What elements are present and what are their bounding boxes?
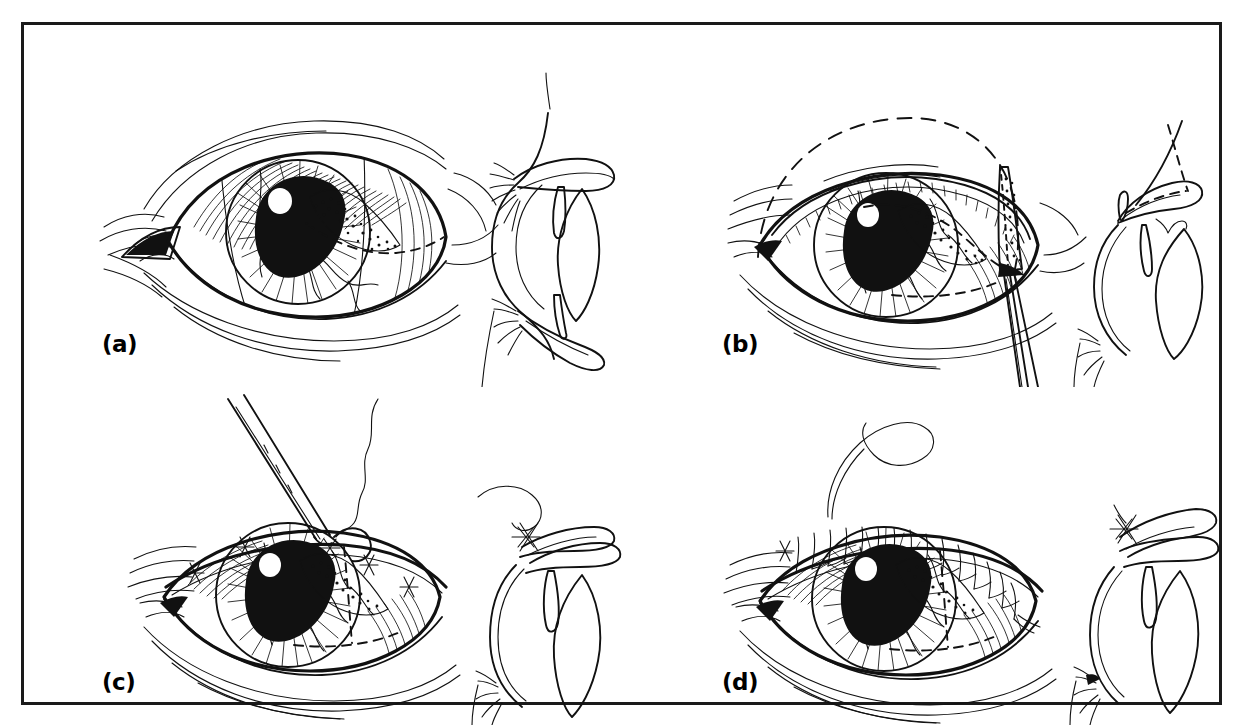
panel-c: (c) bbox=[48, 387, 648, 725]
suture-knot bbox=[1110, 505, 1138, 543]
panel-a-artwork bbox=[48, 49, 648, 387]
panel-d: (d) bbox=[648, 387, 1242, 725]
panel-label-c: (c) bbox=[102, 671, 135, 694]
cross-section-c bbox=[472, 486, 620, 725]
lateral-canthus-strokes bbox=[446, 173, 498, 265]
panel-a: (a) bbox=[48, 49, 648, 387]
lower-lid-skin-line bbox=[482, 311, 494, 387]
lateral-canthus-strokes bbox=[1040, 203, 1086, 273]
suture-thread-free-loop bbox=[828, 423, 934, 517]
cross-section-d bbox=[1070, 505, 1218, 725]
dashed-incision-line-lower bbox=[892, 283, 996, 297]
suture-knot bbox=[512, 523, 540, 551]
cross-section-a bbox=[482, 73, 614, 387]
lower-lash-tuft bbox=[492, 299, 522, 355]
figure-border: (a) bbox=[21, 22, 1222, 705]
lower-lash-tuft bbox=[1078, 329, 1104, 387]
pupil bbox=[245, 540, 336, 642]
panel-label-a: (a) bbox=[102, 333, 137, 356]
panel-label-b: (b) bbox=[722, 333, 758, 356]
panel-label-d: (d) bbox=[722, 671, 758, 694]
panel-c-artwork bbox=[48, 387, 648, 725]
cross-section-b bbox=[1074, 121, 1202, 387]
pupil bbox=[841, 544, 932, 646]
corneal-light-reflex bbox=[259, 553, 281, 577]
suture-knot bbox=[400, 577, 418, 597]
suture-thread-free-end bbox=[336, 399, 378, 537]
sclera-hatching bbox=[368, 591, 428, 669]
corneal-light-reflex bbox=[268, 188, 292, 214]
brow-skin-line bbox=[546, 73, 550, 109]
pupil bbox=[255, 176, 346, 278]
panel-b: (b) bbox=[648, 49, 1242, 387]
corneal-light-reflex bbox=[855, 557, 877, 581]
